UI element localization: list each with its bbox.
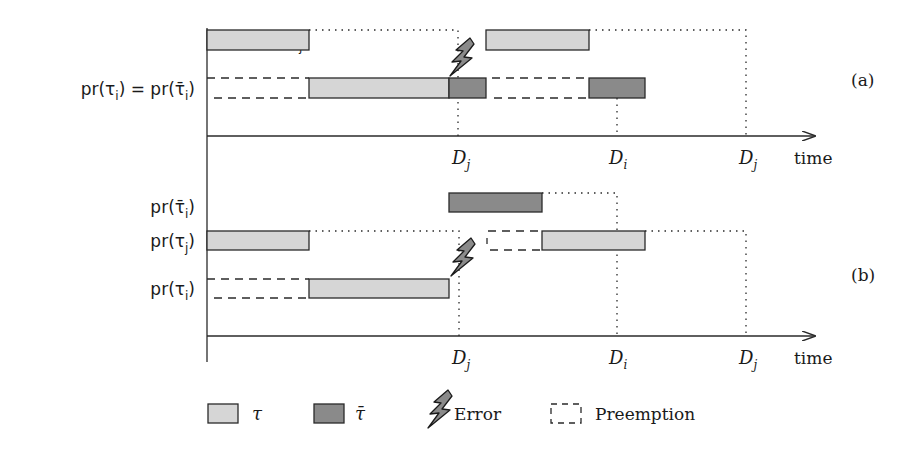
tau-i-bar-b <box>309 279 449 298</box>
taubar-i-bar-b <box>449 193 542 212</box>
taubar-i-deadline-dotted-b <box>542 193 617 336</box>
tau-j-bar-1-b <box>207 231 309 250</box>
legend-lightning-icon <box>428 390 452 428</box>
row-label-pr-taubar-i-b: pr(τ̄i) <box>150 197 195 221</box>
tick-label-dj-1-a: Dj <box>451 147 470 172</box>
panel-tag-b: (b) <box>851 265 875 285</box>
legend-label-tau: τ <box>252 403 263 424</box>
row-label-pr-tau-i-b: pr(τi) <box>150 279 195 303</box>
tau-j-deadline-dotted-2-b <box>645 231 746 336</box>
legend-light-box-icon <box>208 404 238 423</box>
error-lightning-icon-b <box>451 238 475 276</box>
error-lightning-icon-a <box>450 38 474 76</box>
legend-label-error: Error <box>454 404 502 424</box>
panel-tag-a: (a) <box>851 70 874 90</box>
tick-label-dj-2-a: Dj <box>738 147 757 172</box>
tick-label-di-a: Di <box>608 147 627 172</box>
legend: τ τ̄ Error Preemption <box>208 390 695 428</box>
tau-j-bar-2-a <box>486 30 589 50</box>
row-label-pr-tau-i-equals-pr-taubar-i: pr(τi) = pr(τ̄i) <box>81 79 195 103</box>
taubar-i-bar-2-a <box>589 78 645 98</box>
row-label-pr-tau-j-b: pr(τj) <box>150 231 195 255</box>
tick-label-di-b: Di <box>608 347 627 372</box>
legend-label-preemption: Preemption <box>595 404 695 424</box>
axis-label-time-a: time <box>794 148 832 168</box>
tau-j-bar-1-a <box>207 30 309 50</box>
legend-dark-box-icon <box>314 404 344 423</box>
taubar-i-bar-1-a <box>449 78 486 98</box>
tau-j-bar-2-b <box>542 231 645 250</box>
panel-b: pr(τ̄i) pr(τj) pr(τi) Dj Di Dj time <box>150 193 875 372</box>
legend-dashed-box-icon <box>551 404 581 423</box>
legend-label-taubar: τ̄ <box>355 403 366 424</box>
tau-i-bar-a <box>309 78 449 98</box>
schedule-diagram: pr(τj) pr(τi) = pr(τ̄i) Dj Di Dj time ( <box>0 0 921 459</box>
tick-label-dj-2-b: Dj <box>738 347 757 372</box>
tick-label-dj-1-b: Dj <box>451 347 470 372</box>
axis-label-time-b: time <box>794 348 832 368</box>
